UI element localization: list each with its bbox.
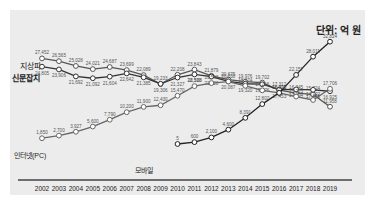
data-point-marker [40,56,45,61]
data-point-marker [294,73,299,78]
data-point-marker [192,84,197,89]
data-point-marker [243,83,248,88]
data-label: 10,200 [120,104,134,109]
data-label: 21,092 [86,82,100,87]
data-point-marker [260,88,265,93]
data-point-marker [192,140,197,145]
data-point-marker [328,86,333,91]
data-label: 18,674 [238,78,252,83]
x-tick-label: 2012 [204,185,219,192]
data-label: 28,011 [306,49,320,54]
x-tick-label: 2005 [86,185,101,192]
data-point-marker [73,129,78,134]
x-tick-label: 2006 [103,185,118,192]
data-point-marker [209,135,214,140]
data-point-marker [192,67,197,72]
data-label: 2,700 [53,128,65,133]
data-label: 600 [191,134,199,139]
line-chart: 2002200320042005200620072008200920102011… [0,0,375,221]
data-point-marker [57,133,62,138]
data-point-marker [243,115,248,120]
x-tick-label: 2004 [69,185,84,192]
data-label: 1,850 [36,130,48,135]
data-label: 19,233 [154,76,168,81]
data-point-marker [226,79,231,84]
data-label: 19,306 [154,88,168,93]
data-label: 4,600 [223,122,235,127]
series-name-label: 지상파 [20,61,42,71]
x-tick-label: 2010 [170,185,185,192]
x-tick-label: 2007 [119,185,134,192]
data-label: 21,385 [137,81,151,86]
data-point-marker [158,103,163,108]
data-label: 21,879 [204,68,218,73]
data-label: 3,927 [70,124,82,129]
series-name-label: 신문잡지 [12,73,40,83]
data-label: 22,089 [137,67,151,72]
data-label: 16,400 [272,85,286,90]
data-point-marker [175,75,180,80]
data-point-marker [40,136,45,141]
data-point-marker [57,59,62,64]
data-label: 21,692 [69,80,83,85]
data-point-marker [73,74,78,79]
data-label: 23,906 [52,73,66,78]
data-label: 5 [176,136,179,141]
data-label: 32,824 [323,34,337,39]
data-label: 11,900 [137,99,151,104]
data-label: 20,030 [221,74,235,79]
data-point-marker [40,64,45,69]
series-name-label: 인터넷(PC) [14,151,46,160]
data-label: 22,208 [170,67,184,72]
data-point-marker [260,102,265,107]
x-tick-label: 2002 [35,185,50,192]
data-point-marker [328,39,333,44]
data-label: 17,216 [255,82,269,87]
data-point-marker [175,93,180,98]
data-point-marker [311,54,316,59]
data-label: 19,702 [255,75,269,80]
data-label: 21,327 [170,82,184,87]
data-label: 16,925 [323,95,337,100]
data-point-marker [158,81,163,86]
data-label: 27,452 [35,50,49,55]
data-label: 19,540 [204,75,218,80]
data-label: 18,560 [187,78,201,83]
data-point-marker [124,110,129,115]
x-tick-label: 2015 [255,185,270,192]
data-label: 23,699 [120,62,134,67]
x-tick-label: 2003 [52,185,67,192]
data-point-marker [141,75,146,80]
x-tick-label: 2018 [306,185,321,192]
data-point-marker [328,104,333,109]
data-label: 22,642 [120,77,134,82]
data-point-marker [294,94,299,99]
x-tick-label: 2009 [153,185,168,192]
x-tick-label: 2017 [289,185,304,192]
data-point-marker [311,98,316,103]
data-label: 5,600 [87,119,99,124]
data-point-marker [90,76,95,81]
data-label: 25,028 [69,58,83,63]
data-label: 14,122 [306,92,320,97]
data-label: 7,790 [104,112,116,117]
x-tick-label: 2014 [238,185,253,192]
data-label: 15,223 [289,89,303,94]
data-point-marker [107,117,112,122]
x-tick-label: 2016 [272,185,287,192]
data-point-marker [226,127,231,132]
data-label: 26,565 [52,53,66,58]
x-tick-label: 2019 [323,185,338,192]
data-label: 22,157 [289,67,303,72]
data-point-marker [107,74,112,79]
data-point-marker [277,90,282,95]
x-tick-label: 2008 [136,185,151,192]
series-3: 56002,1004,6008,39112,80216,40022,15728,… [135,34,337,175]
data-point-marker [73,64,78,69]
data-label: 21,604 [103,81,117,86]
data-label: 24,687 [103,59,117,64]
data-point-marker [90,67,95,72]
data-label: 12,430 [154,97,168,102]
data-label: 17,706 [323,81,337,86]
data-label: 24,021 [86,61,100,66]
